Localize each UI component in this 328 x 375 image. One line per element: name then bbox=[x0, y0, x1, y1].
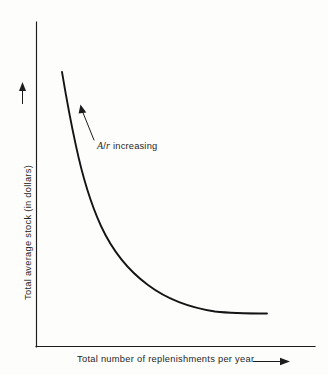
annotation-trailing-text: increasing bbox=[113, 141, 157, 151]
annotation-a-over-r-increasing: A/r increasing bbox=[97, 140, 157, 152]
annotation-pointer-line bbox=[83, 112, 95, 141]
data-curve-total-average-stock bbox=[62, 72, 267, 314]
y-axis-label: Total average stock (in dollars) bbox=[22, 0, 34, 300]
annotation-symbol-denominator: r bbox=[106, 140, 110, 151]
x-label-arrow-head bbox=[280, 358, 290, 366]
x-axis-label: Total number of replenishments per year bbox=[77, 353, 254, 365]
plot-canvas bbox=[0, 0, 328, 375]
chart-figure: Total number of replenishments per year … bbox=[0, 0, 328, 375]
annotation-pointer-arrowhead bbox=[79, 105, 87, 114]
